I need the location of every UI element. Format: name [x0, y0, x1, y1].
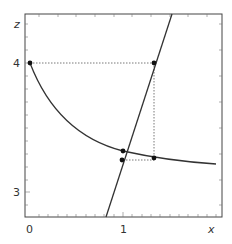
- marker-start: [28, 61, 33, 66]
- x-axis-label: x: [208, 224, 215, 235]
- marker-line-lower: [120, 158, 125, 163]
- increasing-line: [106, 14, 172, 217]
- x-tick-label-1: 1: [120, 224, 127, 235]
- marker-curve-point: [152, 156, 157, 161]
- y-axis-label: z: [14, 19, 20, 30]
- plot-frame: [25, 14, 222, 217]
- markers: [28, 61, 157, 163]
- x-tick-label-0: 0: [26, 224, 33, 235]
- guide-lines: [30, 63, 154, 160]
- chart-canvas: [0, 0, 232, 244]
- tick-marks: [25, 14, 222, 217]
- y-tick-label-3: 3: [13, 187, 20, 198]
- y-tick-label-4: 4: [13, 58, 20, 69]
- marker-intersection: [121, 149, 126, 154]
- marker-line-z4: [152, 61, 157, 66]
